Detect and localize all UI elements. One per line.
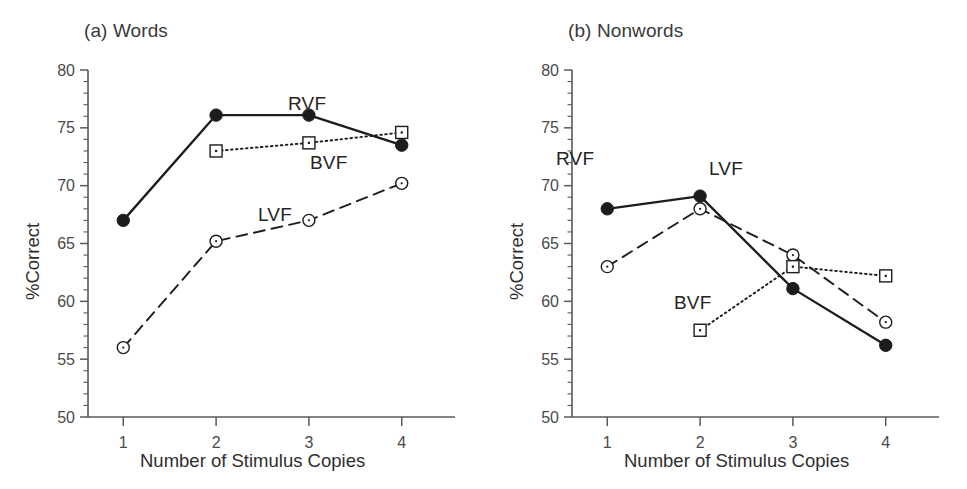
svg-text:3: 3 [304,434,313,451]
svg-text:2: 2 [696,434,705,451]
svg-text:75: 75 [541,119,559,136]
svg-text:65: 65 [57,235,75,252]
figure-container: (a) Words 505560657075801234 %Correct Nu… [0,0,967,489]
series-label-bvf-nonwords: BVF [674,292,712,314]
panel-a-x-axis-title: Number of Stimulus Copies [140,450,365,472]
series-label-rvf-nonwords: RVF [556,148,594,170]
panel-b-x-axis-title: Number of Stimulus Copies [624,450,849,472]
svg-text:1: 1 [603,434,612,451]
svg-text:3: 3 [788,434,797,451]
svg-text:65: 65 [541,235,559,252]
series-label-bvf-words: BVF [310,152,348,174]
svg-text:75: 75 [57,119,75,136]
svg-text:80: 80 [57,62,75,79]
panel-words: (a) Words 505560657075801234 %Correct Nu… [0,0,483,489]
series-label-lvf-nonwords: LVF [709,158,743,180]
svg-text:70: 70 [57,177,75,194]
svg-text:70: 70 [541,177,559,194]
panel-b-y-axis-title: %Correct [506,223,528,300]
svg-text:50: 50 [541,409,559,426]
svg-text:80: 80 [541,62,559,79]
series-label-lvf-words: LVF [258,204,292,226]
series-label-rvf-words: RVF [288,93,326,115]
svg-text:4: 4 [881,434,890,451]
svg-text:1: 1 [119,434,128,451]
panel-b-plot: 505560657075801234 [484,0,967,489]
svg-text:60: 60 [57,293,75,310]
panel-a-plot: 505560657075801234 [0,0,483,489]
svg-text:50: 50 [57,409,75,426]
svg-text:4: 4 [397,434,406,451]
svg-text:60: 60 [541,293,559,310]
svg-text:55: 55 [541,351,559,368]
svg-text:2: 2 [212,434,221,451]
panel-a-y-axis-title: %Correct [22,223,44,300]
svg-text:55: 55 [57,351,75,368]
panel-nonwords: (b) Nonwords 505560657075801234 %Correct… [484,0,967,489]
